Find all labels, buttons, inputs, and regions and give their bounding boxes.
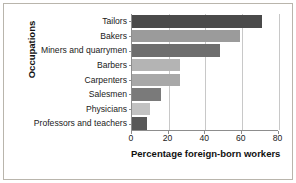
y-axis-tick	[129, 94, 132, 95]
bar	[132, 44, 220, 57]
x-axis-tick-label: 0	[129, 133, 134, 143]
category-label: Physicians	[86, 102, 127, 117]
y-axis-tick	[129, 21, 132, 22]
category-label: Bakers	[100, 29, 127, 44]
y-axis-tick	[129, 80, 132, 81]
bar	[132, 103, 150, 116]
x-axis-tick-label: 60	[236, 133, 246, 143]
category-label: Barbers	[97, 58, 127, 73]
x-axis-title: Percentage foreign-born workers	[131, 148, 278, 159]
bar	[132, 30, 240, 43]
bar	[132, 117, 147, 130]
bar	[132, 88, 161, 101]
bar	[132, 15, 262, 28]
bar	[132, 59, 180, 72]
x-axis-tick-label: 20	[163, 133, 173, 143]
y-axis-tick	[129, 65, 132, 66]
y-axis-tick	[129, 36, 132, 37]
y-axis-tick	[129, 109, 132, 110]
y-axis-tick	[129, 124, 132, 125]
category-label: Salesmen	[89, 87, 127, 102]
category-label: Carpenters	[84, 73, 127, 88]
x-axis-tick-label: 40	[199, 133, 209, 143]
bar	[132, 74, 180, 87]
category-label: Miners and quarrymen	[41, 43, 127, 58]
plot-area	[131, 14, 278, 131]
chart-figure: Occupations TailorsBakersMiners and quar…	[0, 0, 296, 183]
category-label: Professors and teachers	[34, 116, 127, 131]
y-axis-tick	[129, 51, 132, 52]
category-label-column: TailorsBakersMiners and quarrymenBarbers…	[16, 14, 129, 131]
x-axis-tick-label: 80	[273, 133, 283, 143]
gridline	[279, 14, 280, 130]
category-label: Tailors	[102, 14, 127, 29]
gridline	[242, 14, 243, 130]
